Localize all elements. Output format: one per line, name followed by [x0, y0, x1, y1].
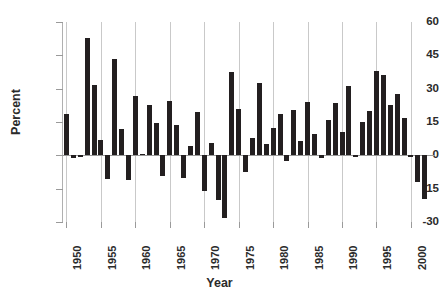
- bar-1988: [326, 120, 331, 156]
- bar-1975: [236, 109, 241, 156]
- bar-1965: [167, 101, 172, 155]
- x-tick-label-1990: 1990: [347, 246, 359, 270]
- zero-baseline: [63, 155, 435, 156]
- x-tick-label-1970: 1970: [209, 246, 221, 270]
- bar-1999: [402, 118, 407, 156]
- bar-1962: [147, 105, 152, 155]
- y-tick-30: [56, 89, 63, 90]
- bar-1992: [353, 155, 358, 156]
- x-tick-label-1985: 1985: [313, 246, 325, 270]
- bar-1981: [278, 114, 283, 155]
- bar-1987: [319, 155, 324, 157]
- bar-1998: [395, 94, 400, 155]
- x-tick-label-1980: 1980: [278, 246, 290, 270]
- x-tick-label-1950: 1950: [71, 246, 83, 270]
- bar-1995: [374, 71, 379, 155]
- gridline-2000: [411, 22, 412, 222]
- bar-2001: [415, 155, 420, 182]
- x-tick-label-1995: 1995: [381, 246, 393, 270]
- y-tick-0: [56, 155, 63, 156]
- plot-area: [63, 22, 435, 222]
- bar-1966: [174, 125, 179, 155]
- x-tick-1960: [135, 222, 136, 228]
- bar-1960: [133, 96, 138, 155]
- bar-1979: [264, 144, 269, 155]
- gridline-1970: [204, 22, 205, 222]
- bar-1976: [243, 155, 248, 172]
- x-tick-1950: [66, 222, 67, 228]
- bar-1954: [92, 85, 97, 155]
- bar-1971: [209, 143, 214, 155]
- bar-1959: [126, 155, 131, 179]
- bar-1982: [284, 155, 289, 161]
- bar-1951: [71, 155, 76, 157]
- gridline-1980: [273, 22, 274, 222]
- y-tick-60: [56, 22, 63, 23]
- x-tick-1975: [239, 222, 240, 228]
- gridline-1955: [101, 22, 102, 222]
- bar-1989: [333, 103, 338, 155]
- bar-1974: [229, 72, 234, 155]
- bar-1977: [250, 138, 255, 156]
- bar-1991: [346, 86, 351, 155]
- gridline-1990: [342, 22, 343, 222]
- x-tick-1970: [204, 222, 205, 228]
- bar-1969: [195, 112, 200, 155]
- bar-1983: [291, 110, 296, 156]
- bar-1970: [202, 155, 207, 191]
- y-axis-title: Percent: [9, 62, 23, 162]
- bar-1972: [216, 155, 221, 199]
- bar-1973: [222, 155, 227, 217]
- bar-1955: [98, 140, 103, 156]
- x-tick-1985: [308, 222, 309, 228]
- bar-1997: [388, 105, 393, 155]
- bar-1986: [312, 134, 317, 155]
- bar-chart: Percent Year 604530150-15-30 19501955196…: [0, 0, 439, 298]
- bar-1964: [160, 155, 165, 176]
- x-axis-title: Year: [0, 276, 439, 290]
- bar-1967: [181, 155, 186, 177]
- bar-1961: [140, 154, 145, 155]
- y-tick-45: [56, 55, 63, 56]
- bar-1993: [360, 122, 365, 155]
- x-tick-1995: [376, 222, 377, 228]
- bar-1953: [85, 38, 90, 156]
- x-tick-label-1975: 1975: [244, 246, 256, 270]
- bar-1978: [257, 83, 262, 155]
- bar-1963: [154, 123, 159, 155]
- bar-1957: [112, 59, 117, 156]
- x-tick-1980: [273, 222, 274, 228]
- bar-1980: [271, 128, 276, 156]
- x-tick-label-1965: 1965: [175, 246, 187, 270]
- bar-1968: [188, 146, 193, 155]
- x-tick-1965: [170, 222, 171, 228]
- x-tick-label-1960: 1960: [140, 246, 152, 270]
- y-tick--15: [56, 189, 63, 190]
- bar-1985: [305, 102, 310, 155]
- bar-1958: [119, 129, 124, 156]
- x-tick-2000: [411, 222, 412, 228]
- y-tick-15: [56, 122, 63, 123]
- bar-2002: [422, 155, 427, 198]
- y-tick--30: [56, 222, 63, 223]
- x-tick-label-2000: 2000: [416, 246, 428, 270]
- bar-1996: [381, 75, 386, 155]
- bar-1956: [105, 155, 110, 178]
- bar-1952: [78, 155, 83, 156]
- bar-1994: [367, 111, 372, 155]
- bar-2000: [408, 155, 413, 156]
- x-tick-1990: [342, 222, 343, 228]
- bar-1950: [64, 114, 69, 155]
- x-tick-label-1955: 1955: [106, 246, 118, 270]
- bar-1990: [340, 132, 345, 155]
- bar-1984: [298, 141, 303, 155]
- x-tick-1955: [101, 222, 102, 228]
